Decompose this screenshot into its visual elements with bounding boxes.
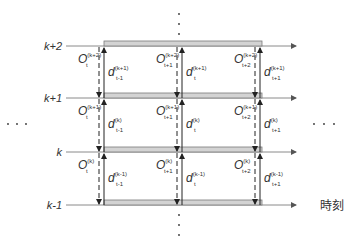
ellipsis-dot bbox=[178, 234, 180, 236]
ellipsis-dot bbox=[178, 23, 180, 25]
layer-band bbox=[104, 93, 262, 98]
d-label: d(k+1)t-1 bbox=[108, 65, 129, 81]
ellipsis-dot bbox=[178, 33, 180, 35]
d-label: d(k)t bbox=[186, 117, 200, 133]
row-label: k-1 bbox=[47, 199, 62, 211]
d-label: d(k)t-1 bbox=[108, 117, 124, 133]
o-label: O(k+2)t+2 bbox=[234, 52, 257, 68]
ellipsis-dot bbox=[16, 123, 18, 125]
d-label: d(k)t+1 bbox=[264, 117, 281, 133]
o-label: O(k+1)t bbox=[78, 104, 101, 120]
o-label: O(k)t+1 bbox=[156, 158, 173, 174]
d-label: d(k-1)t bbox=[186, 171, 205, 187]
d-label: d(k-1)t+1 bbox=[264, 171, 283, 187]
d-label: d(k+1)t+1 bbox=[264, 65, 285, 81]
row-label: k+1 bbox=[44, 92, 62, 104]
ellipsis-dot bbox=[313, 123, 315, 125]
o-label: O(k+2)t+1 bbox=[156, 52, 179, 68]
ellipsis-dot bbox=[178, 13, 180, 15]
o-label: O(k+1)t+1 bbox=[156, 104, 179, 120]
layer-band bbox=[104, 147, 262, 152]
time-axis-label: 時刻 bbox=[320, 199, 344, 213]
ellipsis-dot bbox=[178, 214, 180, 216]
d-label: d(k+1)t bbox=[186, 65, 207, 81]
o-label: O(k+1)t+2 bbox=[234, 104, 257, 120]
row-label: k+2 bbox=[44, 40, 62, 52]
o-label: O(k)t bbox=[78, 158, 94, 174]
o-label: O(k+2)t bbox=[78, 52, 101, 68]
ellipsis-dot bbox=[323, 123, 325, 125]
ellipsis-dot bbox=[25, 123, 27, 125]
ellipsis-dot bbox=[178, 224, 180, 226]
ellipsis-dot bbox=[333, 123, 335, 125]
d-label: d(k-1)t-1 bbox=[108, 171, 127, 187]
row-label: k bbox=[57, 146, 63, 158]
layered-time-diagram: k+2k+1kk-1O(k+2)td(k+1)t-1O(k+2)t+1d(k+1… bbox=[0, 0, 351, 249]
o-label: O(k)t+2 bbox=[234, 158, 251, 174]
diagram-canvas: k+2k+1kk-1O(k+2)td(k+1)t-1O(k+2)t+1d(k+1… bbox=[0, 0, 351, 249]
layer-band bbox=[104, 41, 262, 46]
layer-band bbox=[104, 200, 262, 205]
ellipsis-dot bbox=[7, 123, 9, 125]
